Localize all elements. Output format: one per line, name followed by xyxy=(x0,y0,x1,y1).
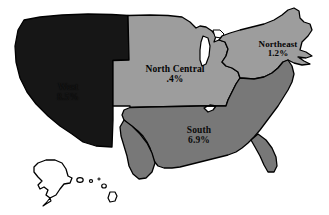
hawaii-island-2 xyxy=(89,180,92,183)
hawaii-island-4 xyxy=(102,184,107,188)
hawaii-island-3 xyxy=(98,178,100,180)
us-region-map-figure: West 8.5% North Central .4% South 6.9% N… xyxy=(0,0,329,215)
alaska-aleutian-tail xyxy=(43,198,51,206)
region-northeast[interactable] xyxy=(219,8,312,79)
hawaii-island-big xyxy=(108,192,117,202)
hawaii-island-1 xyxy=(77,178,83,183)
inset-alaska[interactable] xyxy=(34,160,72,198)
us-map-svg xyxy=(0,0,329,215)
region-north-central[interactable] xyxy=(113,15,240,108)
inset-hawaii[interactable] xyxy=(77,178,117,202)
region-west[interactable] xyxy=(15,14,129,147)
florida-peninsula xyxy=(251,134,277,172)
